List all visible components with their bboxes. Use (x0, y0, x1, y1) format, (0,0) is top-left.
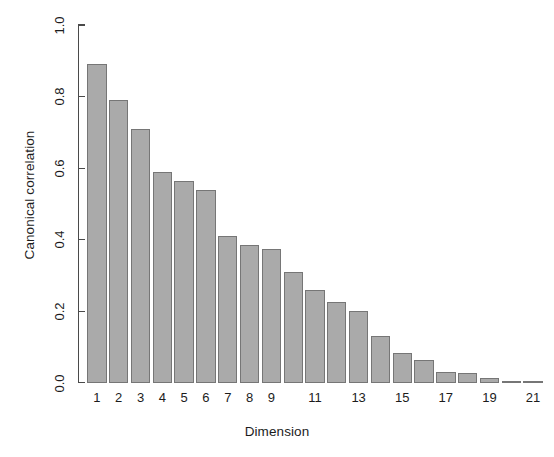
x-tick-label-11: 11 (300, 390, 330, 408)
bar-dimension-6 (196, 190, 215, 383)
y-tick-label-1.0: 1.0 (44, 17, 74, 33)
y-tick-label-text: 0.8 (51, 88, 66, 106)
bar-dimension-19 (480, 378, 499, 383)
bar-dimension-7 (218, 236, 237, 383)
bar-dimension-20 (502, 381, 521, 383)
y-tick-label-text: 0.6 (51, 159, 66, 177)
bar-dimension-5 (174, 181, 193, 383)
bar-dimension-12 (327, 302, 346, 383)
bar-dimension-18 (458, 373, 477, 383)
y-tick-label-0.0: 0.0 (44, 375, 74, 391)
y-tick-1.0 (78, 24, 85, 25)
bar-dimension-21 (523, 381, 542, 383)
y-tick-label-text: 1.0 (51, 16, 66, 34)
bar-dimension-10 (284, 272, 303, 383)
x-tick-label-21: 21 (518, 390, 548, 408)
x-tick-label-17: 17 (431, 390, 461, 408)
y-tick-label-text: 0.2 (51, 302, 66, 320)
y-tick-label-0.6: 0.6 (44, 160, 74, 176)
bar-dimension-8 (240, 245, 259, 383)
bar-dimension-15 (393, 353, 412, 383)
bar-dimension-2 (109, 100, 128, 383)
x-axis-title: Dimension (0, 424, 554, 439)
x-tick-label-9: 9 (256, 390, 286, 408)
x-tick-label-13: 13 (344, 390, 374, 408)
bar-dimension-1 (87, 64, 106, 383)
y-tick-label-text: 0.4 (51, 231, 66, 249)
y-tick-0.4 (78, 239, 85, 240)
bar-dimension-14 (371, 336, 390, 383)
bar-dimension-16 (414, 360, 433, 383)
bar-dimension-17 (436, 372, 455, 383)
y-tick-0.8 (78, 96, 85, 97)
bar-dimension-9 (262, 249, 281, 383)
bar-dimension-4 (153, 172, 172, 383)
bar-dimension-11 (305, 290, 324, 383)
y-tick-label-0.2: 0.2 (44, 303, 74, 319)
y-axis-line (78, 25, 85, 383)
bar-dimension-3 (131, 129, 150, 383)
x-tick-label-19: 19 (474, 390, 504, 408)
x-tick-label-15: 15 (387, 390, 417, 408)
y-tick-0.2 (78, 311, 85, 312)
y-tick-label-0.4: 0.4 (44, 232, 74, 248)
y-tick-0.6 (78, 168, 85, 169)
y-axis-title: Canonical correlation (14, 0, 44, 390)
canonical-correlation-bar-chart: Canonical correlation 0.00.20.40.60.81.0… (0, 0, 554, 457)
y-tick-label-text: 0.0 (51, 374, 66, 392)
plot-area (86, 25, 544, 383)
y-tick-0.0 (78, 382, 85, 383)
y-tick-label-0.8: 0.8 (44, 89, 74, 105)
bar-dimension-13 (349, 311, 368, 383)
bar-series (86, 25, 544, 383)
